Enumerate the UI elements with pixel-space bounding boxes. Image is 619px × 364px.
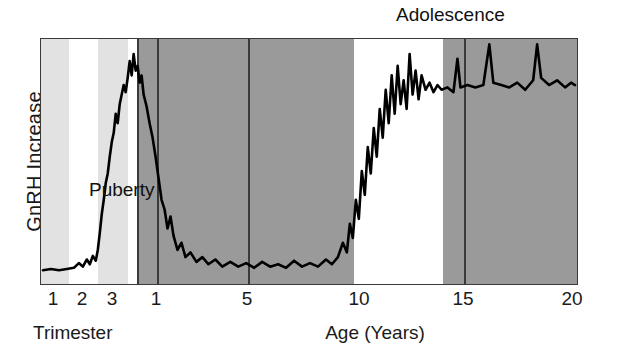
gnrh-development-figure: GnRH Increase Puberty Adolescence 123151… [0,0,619,364]
x-tick-trimester-1: 1 [48,288,59,310]
annotation-adolescence: Adolescence [396,4,505,26]
plot-area: Puberty [40,38,578,285]
x-tick-age-15: 15 [452,288,473,310]
annotation-puberty: Puberty [89,179,154,201]
x-tick-age-1: 1 [151,288,162,310]
x-tick-age-10: 10 [348,288,369,310]
x-axis-label-trimester: Trimester [33,322,113,344]
x-axis-label-age: Age (Years) [325,322,425,344]
gnrh-curve-svg [41,39,577,284]
x-tick-trimester-2: 2 [77,288,88,310]
gnrh-curve [41,39,577,284]
x-tick-age-20: 20 [561,288,582,310]
gnrh-curve-path [43,44,575,270]
x-tick-age-5: 5 [242,288,253,310]
x-tick-trimester-3: 3 [107,288,118,310]
